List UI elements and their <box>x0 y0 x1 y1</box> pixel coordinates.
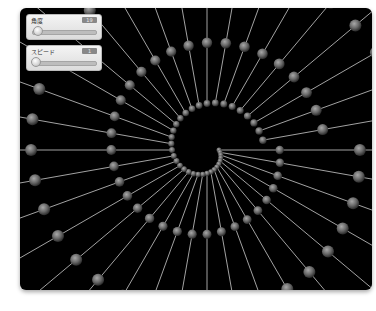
sphere <box>347 197 359 209</box>
sphere <box>231 222 240 231</box>
sphere <box>123 191 133 201</box>
sphere <box>354 144 366 156</box>
sphere <box>203 230 212 239</box>
radial-line <box>217 167 372 290</box>
sphere <box>255 127 262 134</box>
sphere <box>177 115 183 121</box>
sphere <box>370 47 372 59</box>
sphere <box>259 137 266 144</box>
sphere <box>322 246 334 258</box>
speed-value: 1 <box>82 48 97 54</box>
sphere <box>136 67 146 77</box>
sphere <box>337 222 349 234</box>
radial-line <box>220 152 372 219</box>
radial-line <box>20 169 184 290</box>
angle-slider-thumb[interactable] <box>33 26 43 36</box>
sphere <box>274 59 285 70</box>
sphere <box>250 119 257 126</box>
sphere <box>281 283 293 290</box>
sphere <box>257 49 268 60</box>
sphere <box>182 110 189 117</box>
sphere <box>202 38 212 48</box>
sphere <box>110 112 120 122</box>
sphere <box>115 177 125 187</box>
sphere <box>170 127 176 133</box>
speed-label: スピード <box>31 48 55 55</box>
sphere <box>29 174 41 186</box>
sphere <box>173 121 179 127</box>
sphere <box>171 153 177 159</box>
sphere <box>52 230 64 242</box>
sphere <box>195 172 201 178</box>
sphere <box>189 105 196 112</box>
speed-slider-thumb[interactable] <box>31 57 41 67</box>
sphere <box>109 162 119 172</box>
sphere <box>183 41 193 51</box>
sphere <box>229 103 236 110</box>
sphere <box>116 95 126 105</box>
sphere <box>33 83 45 95</box>
speed-slider-track[interactable] <box>32 61 97 66</box>
sphere <box>317 124 328 135</box>
sphere <box>25 144 37 156</box>
sphere <box>158 222 167 231</box>
sphere <box>237 107 244 114</box>
sphere <box>168 141 174 147</box>
sphere <box>311 105 322 116</box>
radial-line <box>20 166 180 290</box>
sphere <box>303 266 315 278</box>
sphere <box>244 112 251 119</box>
sphere <box>276 159 284 167</box>
sphere <box>217 227 226 236</box>
sphere <box>273 171 282 180</box>
sphere <box>301 87 312 98</box>
sphere <box>107 128 117 138</box>
sphere <box>212 100 219 107</box>
sphere <box>254 206 263 215</box>
radial-line <box>138 8 200 105</box>
sphere <box>166 47 176 57</box>
sphere <box>169 134 175 140</box>
spiral-canvas: 角度 19 スピード 1 <box>20 8 372 290</box>
sphere <box>269 184 278 193</box>
sphere <box>27 113 39 125</box>
radial-line <box>20 161 177 287</box>
sphere <box>125 80 135 90</box>
radial-line <box>219 164 372 290</box>
angle-control-panel: 角度 19 <box>26 14 102 40</box>
sphere <box>276 146 284 154</box>
sphere <box>169 147 175 153</box>
speed-control-panel: スピード 1 <box>26 45 102 71</box>
sphere <box>289 72 300 83</box>
sphere <box>70 254 82 266</box>
angle-value: 19 <box>82 17 97 23</box>
sphere <box>133 204 142 213</box>
sphere <box>145 214 154 223</box>
sphere <box>150 55 160 65</box>
sphere <box>221 38 232 49</box>
sphere <box>188 230 197 239</box>
sphere <box>38 203 50 215</box>
sphere <box>243 215 252 224</box>
sphere <box>92 274 104 286</box>
sphere <box>239 42 250 53</box>
radial-line <box>20 174 193 290</box>
sphere <box>173 227 182 236</box>
radial-line <box>20 172 189 290</box>
radial-line <box>220 161 372 290</box>
sphere <box>220 100 227 107</box>
sphere <box>174 158 180 164</box>
sphere <box>196 102 203 109</box>
sphere <box>349 20 361 32</box>
sphere <box>204 100 211 107</box>
sphere <box>106 145 116 155</box>
sphere <box>353 171 365 183</box>
angle-label: 角度 <box>31 17 43 24</box>
sphere <box>262 196 271 205</box>
radial-line <box>221 158 372 290</box>
